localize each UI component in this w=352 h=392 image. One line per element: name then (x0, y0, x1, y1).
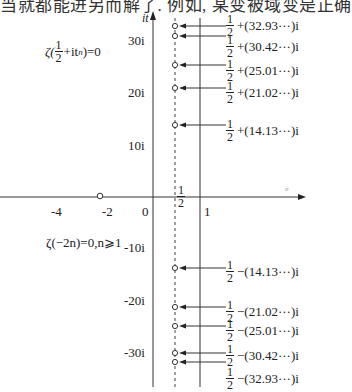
zero-circle-icon (172, 350, 177, 355)
zero-circle-icon (172, 122, 177, 127)
trivial-zeros-formula: ζ(−2n)=0,n⩾1 (46, 235, 121, 251)
zero-marker (172, 350, 226, 355)
zero-label: 12−(32.93···)i (226, 366, 299, 391)
trivial-zero-marker-icon (97, 193, 103, 199)
tick-label-10i: 10i (128, 139, 145, 152)
imag-axis-label: it (142, 12, 149, 24)
tick-label-half: 12 (177, 184, 186, 209)
tick-label-neg4: -4 (51, 205, 62, 218)
zero-circle-icon (172, 323, 177, 328)
zero-label: 12−(14.13···)i (226, 259, 299, 284)
imaginary-axis-arrow-icon (150, 11, 156, 20)
critical-line-formula: ζ( 12 +itn)=0 (45, 39, 101, 64)
zero-label: 12+(30.42···)i (226, 34, 299, 59)
zero-marker (172, 323, 226, 328)
zero-marker (172, 33, 226, 38)
arrow-left-icon (179, 86, 186, 91)
zero-marker (172, 304, 226, 309)
zero-label: 12+(21.02···)i (226, 80, 299, 105)
zero-label: 12+(14.13···)i (226, 118, 299, 143)
zero-circle-icon (172, 33, 177, 38)
arrow-left-icon (179, 63, 186, 68)
arrow-left-icon (179, 266, 186, 271)
tick-label-neg10i: -10i (124, 241, 145, 254)
arrow-left-icon (179, 324, 186, 329)
zero-circle-icon (172, 85, 177, 90)
tick-label-neg2: -2 (102, 205, 113, 218)
arrow-left-icon (179, 123, 186, 128)
arrow-left-icon (179, 24, 186, 29)
zero-marker (172, 23, 226, 28)
arrow-left-icon (179, 360, 186, 365)
zero-label: 12−(25.01···)i (226, 318, 299, 343)
zero-marker (172, 265, 226, 270)
arrow-left-icon (179, 351, 186, 356)
zero-circle-icon (172, 62, 177, 67)
zero-label: 12−(30.42···)i (226, 343, 299, 368)
arrow-left-icon (179, 305, 186, 310)
tick-label-30i: 30i (128, 34, 145, 47)
arrow-left-icon (179, 34, 186, 39)
real-axis-arrow-icon (298, 194, 306, 200)
zero-marker (172, 122, 226, 127)
zero-circle-icon (172, 265, 177, 270)
zero-circle-icon (172, 359, 177, 364)
real-axis-label: σ (285, 186, 288, 193)
tick-label-neg20i: -20i (124, 294, 145, 307)
zero-marker (172, 359, 226, 364)
tick-label-0: 0 (142, 205, 149, 218)
tick-label-neg30i: -30i (124, 346, 145, 359)
zero-marker (172, 62, 226, 67)
zero-marker (172, 85, 226, 90)
tick-label-20i: 20i (128, 86, 145, 99)
zero-circle-icon (172, 23, 177, 28)
tick-label-1: 1 (204, 205, 211, 218)
zero-circle-icon (172, 304, 177, 309)
